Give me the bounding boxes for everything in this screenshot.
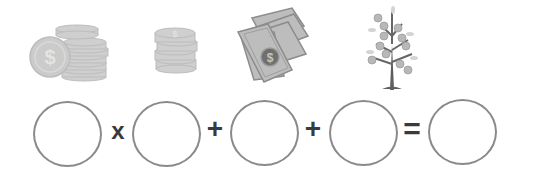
plus-operator-1: + (203, 115, 227, 143)
answer-circle-4[interactable] (329, 100, 398, 166)
big-coin-stack-icon: $ (28, 20, 118, 82)
multiply-operator: x (106, 119, 130, 143)
small-coin-stack-icon: $ (152, 20, 200, 75)
banknotes-icon: $ (234, 4, 324, 84)
svg-text:$: $ (172, 29, 177, 39)
svg-text:$: $ (267, 51, 274, 65)
answer-circle-2[interactable] (132, 101, 201, 167)
equals-operator: = (400, 114, 424, 144)
answer-circle-3[interactable] (230, 100, 299, 166)
plus-operator-2: + (301, 115, 325, 143)
answer-circle-1[interactable] (33, 101, 102, 167)
answer-circle-result[interactable] (428, 99, 497, 165)
money-tree-icon (360, 4, 424, 90)
svg-text:$: $ (44, 46, 55, 68)
